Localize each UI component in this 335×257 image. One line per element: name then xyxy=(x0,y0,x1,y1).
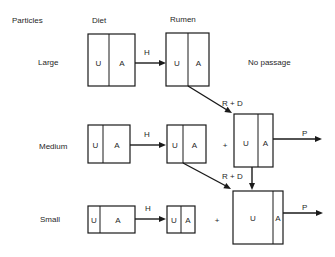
diagram-svg: Particles Diet Rumen Large U A H U A No … xyxy=(0,0,335,257)
medium-p-arrow: P xyxy=(273,129,322,142)
medium-h-arrow: H xyxy=(130,130,166,148)
medium-rumen-box: U A xyxy=(167,125,206,163)
medium-plus-sign: + xyxy=(223,141,228,150)
large-diet-a-label: A xyxy=(119,59,125,68)
large-to-medium-rd-arrow: R + D xyxy=(188,86,243,113)
small-rumen-a-label: A xyxy=(185,216,191,225)
large-h-label: H xyxy=(144,48,150,57)
large-diet-box: U A xyxy=(88,34,135,86)
small-p-label: P xyxy=(302,203,307,212)
medium-pool-box: U A xyxy=(234,114,273,167)
header-diet: Diet xyxy=(92,16,107,25)
small-rd-label: R + D xyxy=(222,172,243,181)
medium-p-label: P xyxy=(302,129,307,138)
small-h-arrow: H xyxy=(135,204,166,222)
large-rumen-box: U A xyxy=(166,33,209,86)
small-p-arrow: P xyxy=(283,203,323,216)
small-diet-box: U A xyxy=(88,206,135,233)
small-h-label: H xyxy=(145,204,151,213)
large-rumen-u-label: U xyxy=(174,59,180,68)
medium-rumen-u-label: U xyxy=(172,141,178,150)
row-label-large: Large xyxy=(38,58,59,67)
medium-h-label: H xyxy=(144,130,150,139)
small-pool-box: U A xyxy=(233,191,283,244)
small-diet-a-label: A xyxy=(115,216,121,225)
medium-diet-u-label: U xyxy=(93,141,99,150)
row-large: Large U A H U A No passage xyxy=(38,33,291,86)
row-small: Small U A H U A + U A P xyxy=(40,191,323,244)
row-label-small: Small xyxy=(40,215,60,224)
large-h-arrowhead-icon xyxy=(159,60,166,66)
row-label-medium: Medium xyxy=(39,142,68,151)
medium-to-small-rd-line xyxy=(183,163,226,186)
particle-flow-diagram: Particles Diet Rumen Large U A H U A No … xyxy=(0,0,335,257)
medium-diet-box: U A xyxy=(88,125,130,163)
header-rumen: Rumen xyxy=(170,15,196,24)
small-pool-a-label: A xyxy=(275,214,281,223)
small-h-arrowhead-icon xyxy=(159,216,166,222)
no-passage-label: No passage xyxy=(248,58,291,67)
small-diet-u-label: U xyxy=(91,216,97,225)
large-diet-u-label: U xyxy=(96,59,102,68)
medium-to-small-pool-arrow xyxy=(249,167,255,190)
small-rumen-box: U A xyxy=(167,206,195,233)
small-rumen-u-label: U xyxy=(171,216,177,225)
medium-p-arrowhead-icon xyxy=(315,136,322,142)
medium-pool-u-label: U xyxy=(243,139,249,148)
medium-rumen-a-label: A xyxy=(192,141,198,150)
medium-h-arrowhead-icon xyxy=(159,142,166,148)
medium-diet-a-label: A xyxy=(114,141,120,150)
medium-pool-a-label: A xyxy=(263,139,269,148)
header-particles: Particles xyxy=(12,16,43,25)
small-pool-u-label: U xyxy=(250,214,256,223)
row-medium: Medium U A H U A + U A P xyxy=(39,114,322,167)
medium-rd-label: R + D xyxy=(222,99,243,108)
small-plus-sign: + xyxy=(215,216,220,225)
medium-to-small-pool-arrowhead-icon xyxy=(249,183,255,190)
large-rumen-a-label: A xyxy=(196,59,202,68)
large-h-arrow: H xyxy=(135,48,166,66)
small-p-arrowhead-icon xyxy=(316,210,323,216)
